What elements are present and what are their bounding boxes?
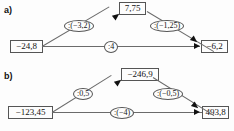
operator-a-down: :(−1,25) [150,20,184,32]
arrowhead-a-to-end-direct [194,43,200,49]
diagram-panel-b: b) −246,9 −123,45 493,8 :0,5 :(−0,5) :(−… [0,66,234,131]
operator-a-direct: :4 [104,41,118,53]
operator-b-down: :(−0,5) [153,88,183,100]
panel-label-b: b) [4,72,13,81]
arrowhead-b-to-end-direct [194,109,200,115]
operator-b-direct: :(−4) [110,107,134,119]
node-b-end-value: 493,8 [202,106,229,119]
node-a-top-value: 7,75 [119,2,146,15]
edge-a-start-to-end [42,46,200,47]
operator-b-up: :0,5 [73,88,93,100]
diagram-panel-a: a) 7,75 −24,8 −6,2 :(−3,2) :(−1,25) :4 [0,0,234,65]
node-b-start-value: −123,45 [8,106,53,119]
node-a-start-value: −24,8 [10,40,43,53]
figure-canvas: a) 7,75 −24,8 −6,2 :(−3,2) :(−1,25) :4 b… [0,0,234,131]
node-b-top-value: −246,9 [121,68,159,81]
panel-label-a: a) [4,6,12,15]
operator-a-up: :(−3,2) [64,20,94,32]
